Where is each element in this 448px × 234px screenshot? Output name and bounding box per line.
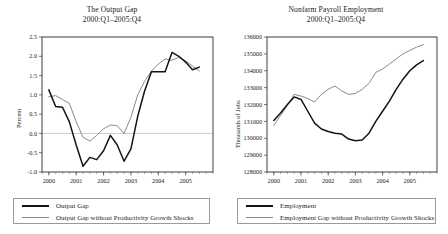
x-tick-label: 2003 (349, 177, 361, 184)
plot-area-nonfarm-payroll: 1360001350001340001330001320001310001300… (224, 0, 448, 200)
y-tick-label: 131000 (243, 118, 262, 125)
legend-label: Employment Gap without Productivity Grow… (280, 214, 434, 221)
y-tick-label: 129000 (243, 151, 262, 158)
x-tick-label: 2005 (404, 177, 416, 184)
x-tick-label: 2001 (295, 177, 307, 184)
y-tick-label: 135000 (243, 50, 262, 57)
y-tick-label: 132000 (243, 101, 262, 108)
y-tick-label: 0.0 (29, 130, 37, 137)
x-tick-label: 2005 (179, 177, 191, 184)
legend-swatch-line-icon (22, 205, 49, 207)
y-tick-label: 130000 (243, 134, 262, 141)
legend-item: Output Gap without Productivity Growth S… (14, 211, 194, 224)
y-tick-label: 134000 (243, 67, 262, 74)
y-tick-label: 0.5 (29, 110, 37, 117)
y-tick-label: -0.5 (27, 149, 37, 156)
legend-swatch-line-icon (246, 217, 273, 218)
y-tick-label: -1.0 (27, 168, 37, 175)
y-tick-label: 1.0 (29, 91, 37, 98)
x-tick-label: 2003 (125, 177, 137, 184)
y-tick-label: 128000 (243, 168, 262, 175)
x-tick-label: 2001 (70, 177, 82, 184)
series-line (274, 45, 424, 126)
figure-two-panel-chart: The Output Gap 2000:Q1–2005:Q4 2.52.01.5… (0, 0, 448, 234)
y-tick-label: 133000 (243, 84, 262, 91)
legend-label: Output Gap without Productivity Growth S… (56, 214, 194, 221)
x-tick-label: 2000 (43, 177, 55, 184)
y-axis-title-thousands-of-jobs: Thousands of Jobs (234, 100, 241, 148)
legend-nonfarm-payroll: Employment Employment Gap without Produc… (237, 198, 436, 224)
legend-swatch-line-icon (22, 217, 49, 218)
x-tick-label: 2002 (322, 177, 334, 184)
y-tick-label: 2.5 (29, 33, 37, 40)
plot-area-output-gap: 2.52.01.51.00.50.0-0.5-1.020002001200220… (0, 0, 224, 200)
legend-label: Output Gap (56, 202, 89, 209)
legend-output-gap: Output Gap Output Gap without Productivi… (13, 198, 210, 224)
legend-swatch-line-icon (246, 205, 273, 207)
x-tick-label: 2004 (152, 177, 164, 184)
panel-output-gap: The Output Gap 2000:Q1–2005:Q4 2.52.01.5… (0, 0, 224, 234)
x-tick-label: 2004 (376, 177, 388, 184)
legend-label: Employment (280, 202, 316, 209)
x-tick-label: 2000 (268, 177, 280, 184)
x-tick-label: 2002 (97, 177, 109, 184)
y-tick-label: 1.5 (29, 72, 37, 79)
y-tick-label: 2.0 (29, 52, 37, 59)
y-tick-label: 136000 (243, 33, 262, 40)
legend-item: Employment Gap without Productivity Grow… (238, 211, 434, 224)
series-line (274, 61, 424, 141)
y-axis-title-percent: Percent (15, 109, 22, 128)
